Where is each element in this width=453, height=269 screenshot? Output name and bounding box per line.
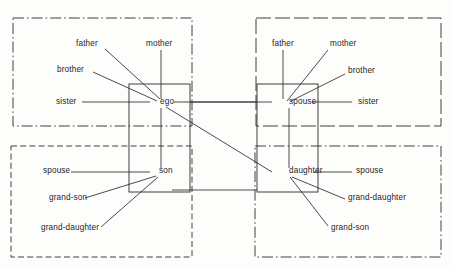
kin-label-son-grand-son: grand-son [49, 193, 88, 202]
kin-label-spouse-brother: brother [348, 66, 375, 75]
node-label-ego: ego [160, 97, 174, 106]
kin-label-daughter-spouse: spouse [356, 166, 384, 175]
kin-label-son-grand-daughter: grand-daughter [41, 223, 99, 232]
node-label-spouse: spouse [289, 97, 317, 106]
node-label-son: son [159, 166, 173, 175]
kin-label-ego-mother: mother [146, 39, 173, 48]
kin-label-ego-sister: sister [56, 97, 77, 106]
kin-label-spouse-father: father [272, 39, 294, 48]
node-label-daughter: daughter [289, 166, 323, 175]
kin-label-daughter-grand-daughter: grand-daughter [348, 193, 406, 202]
kin-label-ego-brother: brother [57, 65, 84, 74]
kin-label-son-spouse: spouse [43, 166, 71, 175]
kin-label-spouse-mother: mother [330, 39, 357, 48]
kinship-diagram: egospousesondaughter fathermotherbrother… [0, 0, 453, 269]
kin-label-daughter-grand-son: grand-son [331, 223, 370, 232]
kin-label-ego-father: father [76, 39, 98, 48]
kinship-diagram-canvas: egospousesondaughter fathermotherbrother… [0, 0, 453, 269]
kin-label-spouse-sister: sister [358, 97, 379, 106]
